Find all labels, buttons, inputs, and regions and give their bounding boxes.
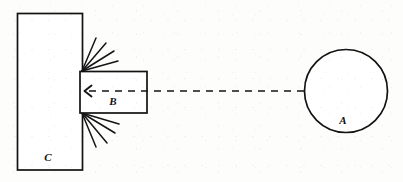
label-block-c: C: [44, 151, 52, 163]
impact-sparks-upper: [82, 38, 118, 71]
spark-ray-upper-2: [82, 43, 106, 71]
block-c-rectangle: [18, 14, 83, 171]
spark-ray-lower-2: [82, 113, 107, 143]
figure-drawing: A B C: [0, 0, 403, 182]
spark-ray-lower-3: [82, 113, 115, 133]
figure-canvas: A B C: [0, 0, 403, 182]
label-bar-b: B: [108, 95, 116, 107]
label-circle-a: A: [338, 114, 346, 126]
spark-ray-upper-4: [82, 61, 118, 71]
impact-sparks-lower: [82, 113, 119, 147]
